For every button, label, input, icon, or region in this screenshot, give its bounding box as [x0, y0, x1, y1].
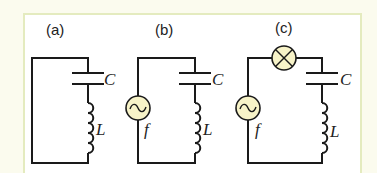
- circuit-b: (b) f C L: [126, 21, 224, 163]
- inductor-label: L: [329, 122, 339, 141]
- capacitor-label: C: [212, 70, 224, 89]
- wire: [296, 58, 322, 72]
- lc-circuits-diagram: (a) C L (b) f C: [0, 0, 377, 173]
- inductor-label: L: [95, 120, 105, 139]
- source-frequency-label: f: [144, 120, 151, 139]
- inductor-icon: [195, 103, 200, 153]
- capacitor-icon: [179, 73, 211, 84]
- inductor-icon: [88, 103, 93, 153]
- capacitor-label: C: [340, 70, 352, 89]
- capacitor-label: C: [104, 70, 116, 89]
- ac-source-icon: [126, 96, 150, 120]
- lamp-icon: [272, 46, 296, 70]
- ac-source-icon: [236, 96, 260, 120]
- capacitor-icon: [306, 73, 338, 84]
- circuit-a-label: (a): [46, 21, 64, 38]
- circuit-b-label: (b): [155, 21, 173, 38]
- source-frequency-label: f: [255, 120, 262, 139]
- circuit-a: (a) C L: [32, 21, 116, 163]
- circuit-c-label: (c): [275, 19, 293, 36]
- circuit-c: (c) f C L: [236, 19, 352, 163]
- inductor-label: L: [202, 120, 212, 139]
- capacitor-icon: [72, 73, 104, 84]
- wire: [248, 58, 272, 96]
- inductor-icon: [322, 103, 327, 153]
- wire: [138, 58, 195, 96]
